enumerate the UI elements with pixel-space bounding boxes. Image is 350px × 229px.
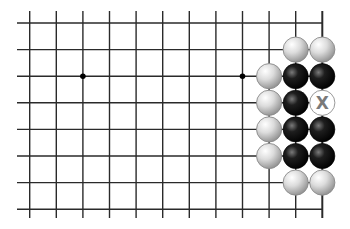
black-stone xyxy=(283,117,308,142)
white-stone xyxy=(283,37,308,62)
white-stone xyxy=(257,90,282,115)
black-stone xyxy=(310,64,335,89)
white-stone xyxy=(310,37,335,62)
x-marker: X xyxy=(310,90,335,115)
white-stone xyxy=(257,64,282,89)
white-stone xyxy=(257,143,282,168)
star-point xyxy=(80,73,86,79)
board-grid xyxy=(17,11,322,218)
black-stone xyxy=(283,64,308,89)
star-point xyxy=(240,73,246,79)
black-stone xyxy=(310,117,335,142)
black-stone xyxy=(283,90,308,115)
go-board-diagram: X xyxy=(0,0,350,229)
markers-layer: X xyxy=(310,90,335,115)
black-stone xyxy=(310,143,335,168)
white-stone xyxy=(257,117,282,142)
x-marker-label: X xyxy=(316,93,329,113)
white-stone xyxy=(310,170,335,195)
white-stone xyxy=(283,170,308,195)
black-stone xyxy=(283,143,308,168)
